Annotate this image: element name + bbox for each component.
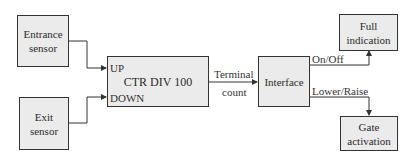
full-indication-label-1: Full (360, 19, 378, 33)
lower-raise-wire (309, 97, 369, 115)
exit-sensor-block: Exit sensor (19, 97, 69, 150)
exit-to-down-wire (68, 97, 106, 123)
on-off-label: On/Off (312, 53, 344, 65)
exit-sensor-label-1: Exit (35, 110, 53, 124)
down-input-label: DOWN (110, 92, 144, 104)
gate-activation-block: Gate activation (340, 116, 398, 151)
gate-activation-label-1: Gate (359, 120, 380, 134)
entrance-sensor-label-2: sensor (29, 41, 57, 55)
full-indication-block: Full indication (339, 14, 398, 51)
entrance-to-up-wire (68, 41, 106, 68)
exit-sensor-label-2: sensor (30, 124, 58, 138)
terminal-count-label-1: Terminal (214, 68, 254, 80)
entrance-sensor-block: Entrance sensor (17, 15, 69, 67)
up-input-label: UP (110, 62, 124, 74)
interface-block: Interface (258, 56, 310, 107)
lower-raise-label: Lower/Raise (312, 85, 368, 97)
full-indication-label-2: indication (347, 33, 391, 47)
gate-activation-label-2: activation (347, 134, 390, 148)
entrance-sensor-label-1: Entrance (23, 27, 62, 41)
interface-label: Interface (264, 75, 303, 89)
counter-title: CTR DIV 100 (124, 75, 192, 89)
terminal-count-label-2: count (222, 86, 246, 98)
